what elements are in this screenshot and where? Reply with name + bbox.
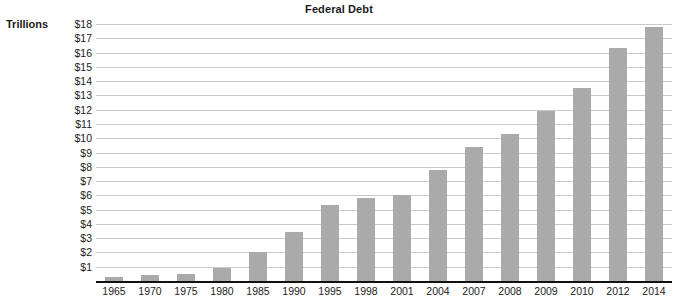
y-tick-label: $6 bbox=[50, 190, 92, 200]
x-axis-tick-labels: 1965197019751980198519901995199820012004… bbox=[96, 285, 672, 301]
y-tick-label: $9 bbox=[50, 148, 92, 158]
y-tick-label: $5 bbox=[50, 205, 92, 215]
x-tick-label: 1975 bbox=[174, 285, 197, 297]
y-tick-label: $18 bbox=[50, 19, 92, 29]
y-tick-label: $15 bbox=[50, 62, 92, 72]
x-tick-label: 2014 bbox=[642, 285, 665, 297]
bar bbox=[501, 134, 519, 281]
y-tick-label: $1 bbox=[50, 262, 92, 272]
bar bbox=[429, 170, 447, 281]
y-tick-label: $7 bbox=[50, 176, 92, 186]
bar-series bbox=[96, 18, 672, 281]
y-tick-label: $16 bbox=[50, 48, 92, 58]
y-tick-label: $4 bbox=[50, 219, 92, 229]
bar bbox=[177, 274, 195, 281]
bar bbox=[537, 111, 555, 281]
x-tick-label: 2004 bbox=[426, 285, 449, 297]
x-tick-label: 1998 bbox=[354, 285, 377, 297]
bar bbox=[213, 268, 231, 281]
bar bbox=[465, 147, 483, 281]
x-tick-label: 2008 bbox=[498, 285, 521, 297]
x-tick-label: 2007 bbox=[462, 285, 485, 297]
y-axis-tick-labels: $18$17$16$15$14$13$12$11$10$9$8$7$6$5$4$… bbox=[48, 18, 92, 281]
x-tick-label: 1965 bbox=[102, 285, 125, 297]
y-tick-label: $8 bbox=[50, 162, 92, 172]
bar bbox=[321, 205, 339, 281]
x-tick-label: 2010 bbox=[570, 285, 593, 297]
y-tick-label: $12 bbox=[50, 105, 92, 115]
bar bbox=[141, 275, 159, 281]
y-tick-label: $10 bbox=[50, 133, 92, 143]
x-axis-line bbox=[96, 281, 672, 283]
x-tick-label: 1995 bbox=[318, 285, 341, 297]
x-tick-label: 2001 bbox=[390, 285, 413, 297]
federal-debt-bar-chart: Federal Debt Trillions $18$17$16$15$14$1… bbox=[0, 0, 678, 303]
bar bbox=[393, 195, 411, 281]
y-tick-label: $17 bbox=[50, 33, 92, 43]
bar bbox=[357, 198, 375, 281]
y-tick-label: $3 bbox=[50, 233, 92, 243]
x-tick-label: 1980 bbox=[210, 285, 233, 297]
bar bbox=[249, 252, 267, 281]
bar bbox=[105, 277, 123, 281]
x-tick-label: 2012 bbox=[606, 285, 629, 297]
bar bbox=[609, 48, 627, 281]
y-tick-label: $11 bbox=[50, 119, 92, 129]
y-tick-label: $14 bbox=[50, 76, 92, 86]
y-tick-label: $13 bbox=[50, 90, 92, 100]
bar bbox=[645, 27, 663, 281]
x-tick-label: 1970 bbox=[138, 285, 161, 297]
x-tick-label: 1990 bbox=[282, 285, 305, 297]
bar bbox=[573, 88, 591, 281]
y-axis-title: Trillions bbox=[6, 18, 48, 30]
bar bbox=[285, 232, 303, 281]
chart-title: Federal Debt bbox=[0, 3, 678, 15]
y-tick-label: $2 bbox=[50, 247, 92, 257]
x-tick-label: 1985 bbox=[246, 285, 269, 297]
x-tick-label: 2009 bbox=[534, 285, 557, 297]
